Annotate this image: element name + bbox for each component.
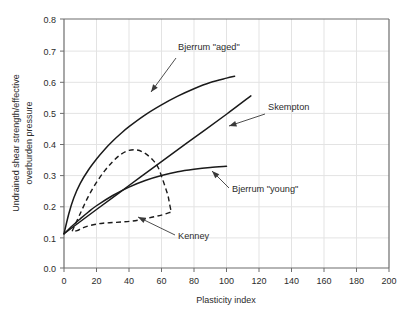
x-tick-label: 120: [251, 276, 266, 286]
chart-svg: 0.0 0.1 0.2 0.3 0.4 0.5 0.6 0.7 0.8 0: [0, 0, 407, 324]
x-tick-label: 200: [381, 276, 396, 286]
y-tick-label: 0.6: [43, 78, 56, 88]
x-tick-label: 0: [61, 276, 66, 286]
y-axis-tick-labels: 0.0 0.1 0.2 0.3 0.4 0.5 0.6 0.7 0.8: [43, 15, 56, 274]
y-tick-label: 0.8: [43, 15, 56, 25]
x-tick-label: 100: [219, 276, 234, 286]
x-tick-label: 40: [124, 276, 134, 286]
annotation-layer: [138, 58, 265, 235]
annot-kenney-arrowhead: [138, 217, 146, 223]
x-tick-label: 140: [284, 276, 299, 286]
y-tick-label: 0.7: [43, 47, 56, 57]
data-curves: [64, 76, 251, 233]
y-tick-label: 0.3: [43, 171, 56, 181]
annotation-label-skempton: Skempton: [268, 102, 309, 112]
x-axis-title: Plasticity index: [196, 295, 256, 305]
x-axis-tick-labels: 0 20 40 60 80 100 120 140 160 180 200: [61, 276, 396, 286]
y-tick-label: 0.4: [43, 140, 56, 150]
y-tick-label: 0.5: [43, 109, 56, 119]
y-axis-title-line2: overburden pressure: [24, 101, 34, 184]
annotation-label-bjerrum-young: Bjerrum "young": [232, 184, 298, 194]
x-tick-label: 180: [349, 276, 364, 286]
x-tick-label: 20: [91, 276, 101, 286]
y-tick-label: 0.2: [43, 202, 56, 212]
y-tick-label: 0.1: [43, 234, 56, 244]
y-axis-title-line1: Undrained shear strength/effective: [11, 74, 21, 211]
x-tick-label: 160: [316, 276, 331, 286]
curve-bjerrum-young: [64, 166, 227, 234]
annotation-label-bjerrum-aged: Bjerrum "aged": [178, 42, 240, 52]
x-tick-label: 60: [156, 276, 166, 286]
annotation-label-kenney: Kenney: [178, 231, 210, 241]
y-tick-label: 0.0: [43, 264, 56, 274]
annot-skempton-arrowhead: [229, 121, 237, 127]
x-tick-label: 80: [189, 276, 199, 286]
grid-vertical: [97, 19, 357, 268]
annot-bjerrum-aged-arrowhead: [151, 84, 158, 92]
chart-figure: 0.0 0.1 0.2 0.3 0.4 0.5 0.6 0.7 0.8 0: [0, 0, 407, 324]
